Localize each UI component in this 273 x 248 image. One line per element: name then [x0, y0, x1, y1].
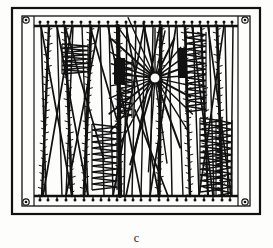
attachment-knot-top — [134, 21, 137, 24]
attachment-knot-top — [191, 21, 194, 24]
screw-bottom-right-slot — [244, 201, 247, 204]
attachment-knot-bottom — [185, 199, 188, 202]
attachment-knot-bottom — [149, 199, 152, 202]
dark-block-right — [178, 48, 186, 78]
attachment-knot-bottom — [212, 199, 215, 202]
attachment-knot-top — [80, 21, 83, 24]
attachment-knot-bottom — [140, 199, 143, 202]
attachment-knot-top — [151, 21, 154, 24]
attachment-knot-bottom — [229, 199, 232, 202]
attachment-knot-bottom — [158, 199, 161, 202]
attachment-knot-top — [125, 21, 128, 24]
figure-drawing — [0, 0, 273, 248]
dark-block-center — [114, 58, 125, 84]
attachment-knot-top — [231, 21, 234, 24]
attachment-knot-top — [159, 21, 162, 24]
attachment-knot-top — [175, 21, 178, 24]
screw-top-right — [242, 17, 248, 23]
attachment-knot-top — [207, 21, 210, 24]
attachment-knot-bottom — [47, 199, 50, 202]
attachment-knot-top — [143, 21, 146, 24]
attachment-knot-bottom — [83, 199, 86, 202]
attachment-knot-top — [183, 21, 186, 24]
attachment-knot-bottom — [108, 199, 111, 202]
screw-bottom-left-slot — [25, 201, 28, 204]
attachment-knot-bottom — [74, 199, 77, 202]
attachment-knot-top — [98, 21, 101, 24]
attachment-knot-bottom — [39, 199, 42, 202]
central-radial-hub-core — [150, 73, 160, 83]
attachment-knot-top — [39, 21, 42, 24]
attachment-knot-top — [199, 21, 202, 24]
attachment-knot-bottom — [92, 199, 95, 202]
figure-panel: c — [0, 0, 273, 248]
attachment-knot-bottom — [132, 199, 135, 202]
screw-top-left — [23, 17, 29, 23]
attachment-knot-top — [55, 21, 58, 24]
screw-top-left-slot — [25, 19, 28, 22]
attachment-knot-bottom — [124, 199, 127, 202]
attachment-knot-bottom — [100, 199, 103, 202]
attachment-knot-top — [107, 21, 110, 24]
attachment-knot-top — [47, 21, 50, 24]
attachment-knot-bottom — [167, 199, 170, 202]
attachment-knot-top — [223, 21, 226, 24]
attachment-knot-bottom — [116, 199, 119, 202]
screw-top-right-slot — [244, 19, 247, 22]
attachment-knot-bottom — [176, 199, 179, 202]
attachment-knot-top — [89, 21, 92, 24]
attachment-knot-top — [63, 21, 66, 24]
attachment-knot-bottom — [203, 199, 206, 202]
attachment-knot-bottom — [65, 199, 68, 202]
attachment-knot-top — [215, 21, 218, 24]
attachment-knot-bottom — [56, 199, 59, 202]
attachment-knot-top — [116, 21, 119, 24]
screw-bottom-right — [242, 199, 248, 205]
screw-bottom-left — [23, 199, 29, 205]
attachment-knot-bottom — [194, 199, 197, 202]
attachment-knot-top — [71, 21, 74, 24]
attachment-knot-top — [167, 21, 170, 24]
attachment-knot-bottom — [221, 199, 224, 202]
